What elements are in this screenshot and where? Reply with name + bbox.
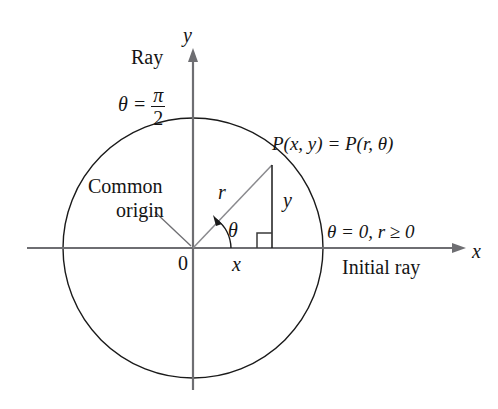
polar-coordinate-diagram [0,0,498,409]
theta-equals-text: θ = [118,93,146,115]
y-component-label: y [283,190,292,210]
origin-zero-label: 0 [178,253,188,273]
point-p-label: P(x, y) = P(r, θ) [272,134,393,153]
fraction-denominator: 2 [151,107,165,128]
y-axis-arrowhead [188,48,198,62]
x-component-label: x [232,254,241,274]
theta-pi-over-two-label: θ = π 2 [118,85,165,129]
ray-label: Ray [131,47,163,67]
theta-angle-label: θ [228,220,238,240]
radius-label: r [218,182,226,202]
theta-arc-arrowhead [213,215,222,226]
fraction-numerator: π [151,85,165,107]
theta-zero-r-nonnegative-label: θ = 0, r ≥ 0 [327,222,414,241]
right-angle-marker [257,233,272,248]
y-axis-label: y [183,25,192,45]
x-axis-arrowhead [452,243,466,253]
common-origin-label-line1: Common [88,176,162,196]
x-axis-label: x [472,241,481,261]
common-origin-label-line2: origin [116,200,164,220]
pi-over-two-fraction: π 2 [151,85,165,129]
initial-ray-label: Initial ray [342,257,420,277]
